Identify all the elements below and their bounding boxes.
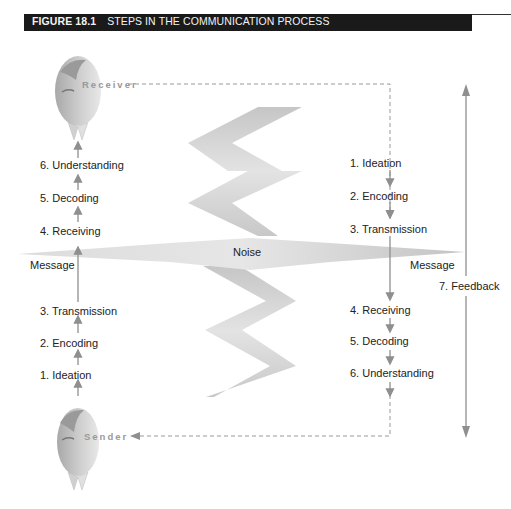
- noise-zigzag-upper: [188, 107, 302, 236]
- left-step-receiving: 4. Receiving: [40, 225, 101, 237]
- message-label-right: Message: [410, 259, 455, 271]
- receiver-head-icon: [55, 56, 101, 140]
- sender-head-icon: [57, 408, 99, 490]
- noise-label: Noise: [233, 246, 261, 258]
- sender-label: Sender: [84, 431, 128, 442]
- right-step-ideation: 1. Ideation: [350, 157, 401, 169]
- left-column-arrows: [75, 142, 82, 396]
- right-step-encoding: 2. Encoding: [350, 190, 408, 202]
- noise-zigzag-lower: [190, 266, 296, 397]
- sender-dashed-arrowhead: [130, 432, 140, 440]
- sender-dashed-line: [132, 395, 390, 436]
- right-step-understanding: 6. Understanding: [350, 367, 434, 379]
- left-step-transmission: 3. Transmission: [40, 305, 117, 317]
- left-step-ideation: 1. Ideation: [40, 369, 91, 381]
- right-column-arrows: [387, 170, 394, 396]
- feedback-label: 7. Feedback: [439, 280, 500, 292]
- receiver-label: Receiver: [82, 79, 138, 90]
- message-label-left: Message: [30, 259, 75, 271]
- left-step-encoding: 2. Encoding: [40, 337, 98, 349]
- feedback-arrow: [462, 84, 470, 438]
- right-step-transmission: 3. Transmission: [350, 223, 427, 235]
- left-step-understanding: 6. Understanding: [40, 159, 124, 171]
- right-step-receiving: 4. Receiving: [350, 304, 411, 316]
- left-step-decoding: 5. Decoding: [40, 192, 99, 204]
- right-step-decoding: 5. Decoding: [350, 335, 409, 347]
